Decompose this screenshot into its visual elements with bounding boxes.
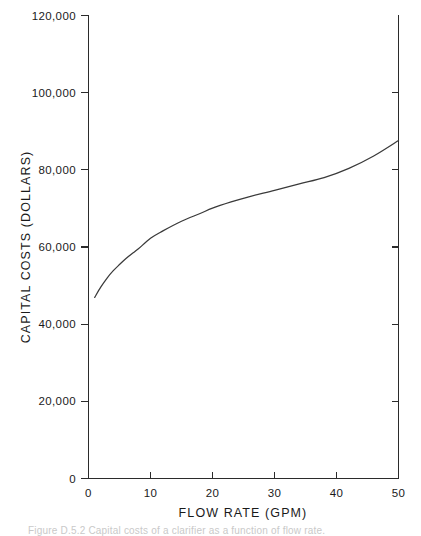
capital-cost-curve [95, 141, 399, 298]
x-tick-label-30: 30 [268, 487, 282, 499]
y-tick-label-0: 0 [69, 473, 76, 485]
x-axis-title: FLOW RATE (GPM) [179, 506, 308, 520]
x-tick-label-10: 10 [144, 487, 158, 499]
x-axis-ticks [89, 472, 399, 479]
x-tick-label-20: 20 [206, 487, 220, 499]
plot-frame [89, 15, 399, 479]
x-tick-label-50: 50 [392, 487, 406, 499]
y-axis-tick-labels: 120,000 100,000 80,000 60,000 40,000 20,… [32, 10, 76, 485]
x-axis-tick-labels: 0 10 20 30 40 50 [85, 487, 405, 499]
right-axis-ticks [392, 93, 399, 402]
x-tick-label-0: 0 [85, 487, 92, 499]
y-tick-label-120000: 120,000 [32, 10, 76, 22]
y-tick-label-60000: 60,000 [38, 241, 76, 253]
y-tick-label-100000: 100,000 [32, 87, 76, 99]
figure-container: 120,000 100,000 80,000 60,000 40,000 20,… [0, 0, 421, 536]
x-tick-label-40: 40 [330, 487, 344, 499]
capital-cost-vs-flow-rate-chart: 120,000 100,000 80,000 60,000 40,000 20,… [0, 0, 421, 536]
y-tick-label-40000: 40,000 [38, 318, 76, 330]
y-axis-title: CAPITAL COSTS (DOLLARS) [19, 151, 33, 344]
y-tick-label-20000: 20,000 [38, 395, 76, 407]
figure-caption: Figure D.5.2 Capital costs of a clarifie… [28, 525, 325, 536]
y-axis-ticks [81, 16, 89, 479]
y-tick-label-80000: 80,000 [38, 164, 76, 176]
